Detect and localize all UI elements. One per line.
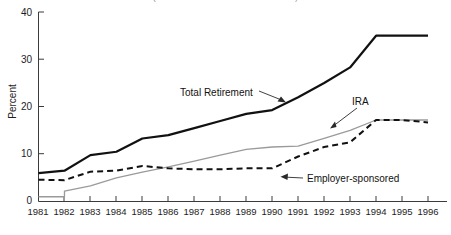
leader-ira <box>330 108 357 129</box>
leader-employer-sponsored <box>281 174 304 181</box>
chart-figure: (Percent of all households with assets) … <box>0 0 451 235</box>
x-ticks <box>64 196 428 202</box>
y-ticks <box>39 12 45 154</box>
series-line-ira <box>39 120 429 197</box>
plot-area <box>0 0 451 235</box>
leader-total-retirement <box>259 91 286 103</box>
series-line-employer-sponsored <box>39 120 429 180</box>
